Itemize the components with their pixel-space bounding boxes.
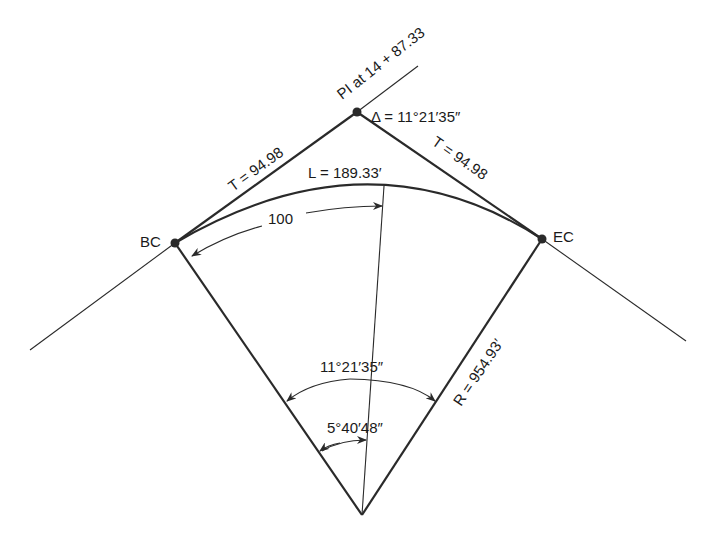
central-angle-arrow-right [350,379,435,401]
ec-label: EC [553,228,574,245]
half-angle-label: 5°40′48″ [327,419,384,436]
radius-line-ec [362,239,542,515]
delta-label: Δ = 11°21′35″ [371,108,461,125]
forward-tangent-extension [542,239,686,341]
radius-label: R = 954.93′ [449,335,506,408]
tangent-line-right [357,112,542,239]
tangent-right-label: T = 94.98 [429,133,491,183]
curve-arc [175,184,542,243]
dimension-arrow-100-right [306,206,382,213]
pi-station-label: PI at 14 + 87.33 [333,23,427,102]
half-angle-arrow-right [322,440,366,451]
circular-curve-diagram: PI at 14 + 87.33 Δ = 11°21′35″ T = 94.98… [0,0,704,536]
pi-point [353,108,362,117]
ec-point [538,235,547,244]
radius-line-bc [175,243,362,515]
arc-length-label: L = 189.33′ [308,164,382,181]
dimension-arrow-100-left [192,226,262,256]
bc-label: BC [140,233,161,250]
chord-100-label: 100 [268,210,293,227]
central-angle-arrow-left [287,379,350,401]
central-angle-label: 11°21′35″ [320,358,384,375]
bc-point [171,239,180,248]
back-tangent-extension [30,243,175,350]
radius-line-100ft-station [362,186,384,515]
